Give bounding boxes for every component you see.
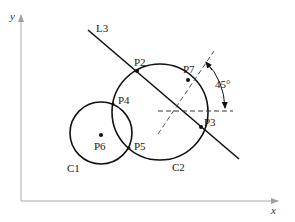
points: [99, 69, 203, 150]
label-l3: L3: [96, 22, 109, 34]
label-p7: P7: [183, 63, 195, 75]
label-p3: P3: [204, 116, 216, 128]
point-p3: [199, 125, 203, 129]
geometry-diagram: y x 45° L3 P2 P3 P4 P5 P6 P7 C1 C2: [0, 0, 295, 222]
point-p2: [135, 69, 139, 73]
angle-arc-start-arrow: [206, 62, 212, 70]
label-c1: C1: [67, 162, 80, 174]
label-c2: C2: [172, 161, 185, 173]
label-p6: P6: [94, 140, 106, 152]
point-p4: [112, 103, 115, 106]
angle-label: 45°: [215, 78, 230, 90]
point-p5: [128, 147, 131, 150]
label-p2: P2: [134, 56, 146, 68]
label-p4: P4: [118, 94, 130, 106]
axes: y x: [9, 10, 278, 216]
point-p7: [186, 78, 190, 82]
label-p5: P5: [134, 140, 146, 152]
point-p6: [99, 133, 103, 137]
x-axis-label: x: [270, 204, 276, 216]
y-axis-label: y: [9, 10, 15, 22]
line-l3: [88, 30, 239, 159]
circle-c2: [112, 64, 208, 160]
